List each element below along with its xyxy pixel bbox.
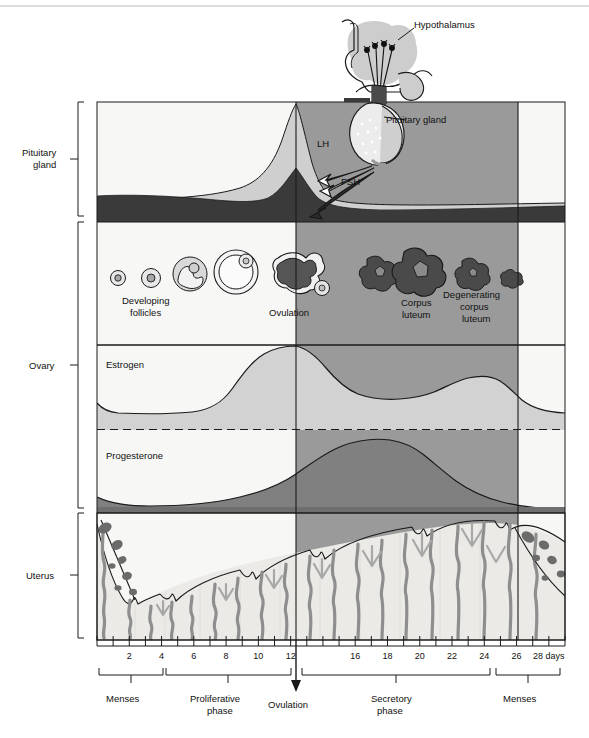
label-hypothalamus: Hypothalamus bbox=[414, 19, 475, 30]
axis-tick-label: 18 bbox=[382, 651, 392, 661]
label-ovulation-ovary: Ovulation bbox=[269, 307, 309, 318]
label-fsh: FSH bbox=[341, 176, 360, 187]
label-progesterone: Progesterone bbox=[106, 450, 163, 461]
axis-tick-label: 8 bbox=[224, 651, 229, 661]
label-lh: LH bbox=[317, 138, 329, 149]
progesterone-panel bbox=[97, 430, 565, 513]
phase-label-menses-late: Menses bbox=[503, 693, 537, 704]
follicle-secondary-3 bbox=[173, 257, 207, 291]
label-corpus-luteum-2: luteum bbox=[402, 309, 431, 320]
ovulation-arrow bbox=[291, 640, 301, 692]
estrogen-panel bbox=[97, 345, 565, 430]
section-label-pituitary-1: Pituitary bbox=[22, 147, 57, 158]
axis-tick-label: 4 bbox=[159, 651, 164, 661]
follicle-primary-2 bbox=[142, 269, 161, 288]
phase-label-ovulation: Ovulation bbox=[268, 699, 308, 710]
label-developing-follicles-2: follicles bbox=[130, 307, 161, 318]
section-label-ovary: Ovary bbox=[29, 360, 55, 371]
ovary-follicle-panel bbox=[97, 222, 565, 345]
section-label-uterus: Uterus bbox=[26, 570, 54, 581]
phase-brackets bbox=[99, 668, 560, 683]
axis-tick-label: 6 bbox=[191, 651, 196, 661]
fsh-baseline-band bbox=[97, 210, 565, 222]
axis-tick-label: 16 bbox=[350, 651, 360, 661]
label-degenerating-1: Degenerating bbox=[443, 289, 500, 300]
phase-label-proliferative-2: phase bbox=[207, 705, 233, 716]
phase-label-menses-early: Menses bbox=[106, 693, 140, 704]
axis-tick-label: 10 bbox=[253, 651, 263, 661]
axis-tick-label: 22 bbox=[447, 651, 457, 661]
menstrual-cycle-diagram: Hypothalamus Pituitary gland LH FSH Deve… bbox=[0, 0, 589, 738]
axis-tick-label: 20 bbox=[415, 651, 425, 661]
follicle-primordial-1 bbox=[111, 271, 126, 286]
axis-tick-label: 26 bbox=[512, 651, 522, 661]
phase-label-secretory-2: phase bbox=[377, 705, 403, 716]
uterus-panel bbox=[96, 513, 565, 640]
axis-tick-label: 28 days bbox=[533, 651, 565, 661]
follicle-graafian-4 bbox=[214, 250, 258, 294]
label-pituitary-gland: Pituitary gland bbox=[386, 114, 446, 125]
label-developing-follicles-1: Developing bbox=[122, 295, 170, 306]
progesterone-baseline-band bbox=[97, 507, 565, 513]
label-degenerating-2: corpus bbox=[460, 301, 489, 312]
figure-root: Hypothalamus Pituitary gland LH FSH Deve… bbox=[0, 0, 589, 738]
label-corpus-luteum-1: Corpus bbox=[401, 297, 432, 308]
phase-label-proliferative-1: Proliferative bbox=[190, 693, 240, 704]
phase-label-secretory-1: Secretory bbox=[371, 693, 412, 704]
label-degenerating-3: luteum bbox=[462, 313, 491, 324]
axis-tick-label: 12 bbox=[286, 651, 296, 661]
section-label-pituitary-2: gland bbox=[33, 159, 56, 170]
section-brackets bbox=[70, 102, 84, 638]
label-estrogen: Estrogen bbox=[106, 359, 144, 370]
axis-tick-label: 24 bbox=[479, 651, 489, 661]
axis-tick-label: 2 bbox=[127, 651, 132, 661]
